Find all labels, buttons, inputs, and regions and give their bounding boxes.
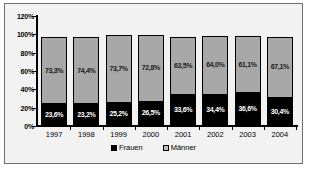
bar-segment-maenner[interactable]: 73,7% xyxy=(107,36,131,101)
bar-segment-maenner[interactable]: 63,5% xyxy=(171,38,195,94)
bar-segment-frauen[interactable]: 23,2% xyxy=(74,103,98,125)
x-axis-tick-label: 2003 xyxy=(232,130,264,139)
bar-value-label-frauen: 33,6% xyxy=(171,106,195,114)
bar-value-label-frauen: 26,5% xyxy=(139,109,163,117)
bar-segment-maenner[interactable]: 72,8% xyxy=(139,36,163,101)
bar-segment-maenner[interactable]: 73,3% xyxy=(42,38,66,103)
bar-segment-frauen[interactable]: 34,4% xyxy=(203,94,227,125)
x-axis-tick-label: 1999 xyxy=(103,130,135,139)
bar-value-label-maenner: 64,0% xyxy=(203,61,227,69)
y-axis-tick-mark xyxy=(32,16,36,17)
x-axis-tick-mark xyxy=(296,127,297,130)
chart-legend: FrauenMänner xyxy=(5,144,302,152)
bar-value-label-maenner: 74,4% xyxy=(74,67,98,75)
y-axis: 0%20%40%60%80%100%120% xyxy=(7,13,35,126)
y-axis-tick-mark xyxy=(32,34,36,35)
x-axis-tick-label: 2002 xyxy=(199,130,231,139)
bar-value-label-frauen: 36,6% xyxy=(236,105,260,113)
bar-value-label-frauen: 34,4% xyxy=(203,106,227,114)
bar-value-label-frauen: 23,2% xyxy=(74,111,98,119)
x-axis-tick-label: 1998 xyxy=(70,130,102,139)
bar-value-label-frauen: 30,4% xyxy=(268,108,292,116)
bar-segment-frauen[interactable]: 36,6% xyxy=(236,92,260,125)
bar-segment-frauen[interactable]: 26,5% xyxy=(139,101,163,125)
bar-segment-maenner[interactable]: 74,4% xyxy=(74,38,98,104)
bar-value-label-maenner: 72,8% xyxy=(139,64,163,72)
x-axis-tick-label: 2001 xyxy=(167,130,199,139)
y-axis-tick-mark xyxy=(32,89,36,90)
stacked-bar[interactable]: 64,0%34,4% xyxy=(202,36,228,126)
bar-value-label-maenner: 61,1% xyxy=(236,61,260,69)
bar-segment-frauen[interactable]: 33,6% xyxy=(171,94,195,125)
x-axis-tick-mark xyxy=(167,127,168,130)
y-axis-tick-mark xyxy=(32,71,36,72)
bar-value-label-frauen: 25,2% xyxy=(107,110,131,118)
stacked-bar[interactable]: 72,8%26,5% xyxy=(138,35,164,126)
bar-segment-maenner[interactable]: 64,0% xyxy=(203,37,227,94)
bar-value-label-maenner: 67,1% xyxy=(268,63,292,71)
bar-segment-frauen[interactable]: 30,4% xyxy=(268,97,292,125)
legend-label: Frauen xyxy=(119,144,143,152)
stacked-bar[interactable]: 61,1%36,6% xyxy=(235,36,261,126)
y-axis-tick-mark xyxy=(32,126,36,127)
x-axis-tick-mark xyxy=(103,127,104,130)
legend-entry[interactable]: Männer xyxy=(163,144,196,152)
x-axis-tick-label: 1997 xyxy=(38,130,70,139)
chart-frame: 0%20%40%60%80%100%120% 73,3%23,6%74,4%23… xyxy=(4,3,303,164)
bar-value-label-maenner: 73,7% xyxy=(107,65,131,73)
stacked-bar[interactable]: 73,3%23,6% xyxy=(41,37,67,126)
stacked-bar[interactable]: 67,1%30,4% xyxy=(267,37,293,126)
legend-swatch-icon xyxy=(111,145,117,151)
y-axis-tick-mark xyxy=(32,108,36,109)
x-axis-tick-mark xyxy=(135,127,136,130)
bar-segment-frauen[interactable]: 25,2% xyxy=(107,102,131,125)
x-axis-tick-label: 2000 xyxy=(135,130,167,139)
x-axis-tick-label: 2004 xyxy=(264,130,296,139)
y-axis-tick-mark xyxy=(32,53,36,54)
stacked-bar[interactable]: 73,7%25,2% xyxy=(106,35,132,126)
bar-value-label-maenner: 73,3% xyxy=(42,67,66,75)
legend-label: Männer xyxy=(171,144,196,152)
x-axis: 19971998199920002001200220032004 xyxy=(38,130,296,142)
legend-entry[interactable]: Frauen xyxy=(111,144,143,152)
x-axis-tick-mark xyxy=(264,127,265,130)
stacked-bar[interactable]: 63,5%33,6% xyxy=(170,37,196,126)
x-axis-tick-mark xyxy=(232,127,233,130)
bar-segment-maenner[interactable]: 67,1% xyxy=(268,38,292,97)
legend-swatch-icon xyxy=(163,145,169,151)
x-axis-tick-mark xyxy=(199,127,200,130)
plot-area: 73,3%23,6%74,4%23,2%73,7%25,2%72,8%26,5%… xyxy=(38,16,296,126)
bar-value-label-maenner: 63,5% xyxy=(171,62,195,70)
x-axis-tick-mark xyxy=(70,127,71,130)
bar-segment-frauen[interactable]: 23,6% xyxy=(42,103,66,125)
plot-wrapper: 0%20%40%60%80%100%120% 73,3%23,6%74,4%23… xyxy=(5,4,302,163)
bar-value-label-frauen: 23,6% xyxy=(42,111,66,119)
stacked-bar[interactable]: 74,4%23,2% xyxy=(73,37,99,126)
bar-segment-maenner[interactable]: 61,1% xyxy=(236,37,260,91)
